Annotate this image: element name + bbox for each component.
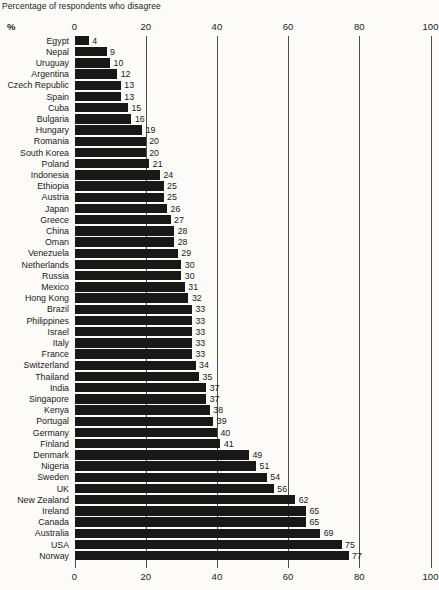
country-label: Romania	[0, 136, 69, 146]
bar	[75, 226, 175, 235]
bar	[75, 529, 321, 538]
country-label: Bulgaria	[0, 114, 69, 124]
value-label: 25	[167, 192, 177, 202]
x-axis-tick-label-bottom: 60	[283, 571, 294, 582]
value-label: 41	[224, 439, 234, 449]
x-axis-tick-label-top: 0	[72, 21, 77, 32]
bar-row: France33	[0, 349, 439, 360]
bar	[75, 450, 249, 459]
bar-chart-page: Percentage of respondents who disagree %…	[0, 0, 439, 590]
value-label: 30	[185, 260, 195, 270]
value-label: 35	[203, 372, 213, 382]
country-label: USA	[0, 540, 69, 550]
bar	[75, 249, 178, 258]
value-label: 77	[352, 551, 362, 561]
value-label: 20	[149, 136, 159, 146]
value-label: 54	[270, 472, 280, 482]
country-label: Japan	[0, 204, 69, 214]
country-label: Cuba	[0, 103, 69, 113]
bar	[75, 58, 111, 67]
bar	[75, 47, 107, 56]
bar-row: Italy33	[0, 337, 439, 348]
value-label: 9	[110, 47, 115, 57]
bar-row: Venezuela29	[0, 248, 439, 259]
value-label: 15	[131, 103, 141, 113]
x-axis-tick-label-bottom: 100	[423, 571, 439, 582]
value-label: 69	[324, 528, 334, 538]
value-label: 33	[195, 304, 205, 314]
value-label: 4	[92, 36, 97, 46]
value-label: 56	[277, 484, 287, 494]
bar	[75, 394, 207, 403]
bar-row: Indonesia24	[0, 169, 439, 180]
country-label: Philippines	[0, 316, 69, 326]
bar	[75, 517, 306, 526]
x-axis-tick-label-top: 20	[140, 21, 151, 32]
value-label: 65	[309, 517, 319, 527]
value-label: 21	[153, 159, 163, 169]
country-label: Egypt	[0, 36, 69, 46]
bar-row: India37	[0, 382, 439, 393]
bar-row: Bulgaria16	[0, 113, 439, 124]
bar-row: Greece27	[0, 214, 439, 225]
bar	[75, 69, 118, 78]
bar	[75, 237, 175, 246]
country-label: Poland	[0, 159, 69, 169]
value-label: 37	[210, 383, 220, 393]
bar	[75, 484, 274, 493]
country-label: Italy	[0, 338, 69, 348]
bar-row: Japan26	[0, 203, 439, 214]
value-label: 31	[188, 282, 198, 292]
value-label: 65	[309, 506, 319, 516]
country-label: Netherlands	[0, 260, 69, 270]
country-label: Thailand	[0, 372, 69, 382]
country-label: Czech Republic	[0, 80, 69, 90]
bar-row: South Korea20	[0, 147, 439, 158]
country-label: China	[0, 226, 69, 236]
bar	[75, 159, 150, 168]
bar-row: Nepal9	[0, 46, 439, 57]
country-label: Germany	[0, 428, 69, 438]
bar-row: Netherlands30	[0, 259, 439, 270]
bar-row: Russia30	[0, 270, 439, 281]
value-label: 62	[299, 495, 309, 505]
country-label: Uruguay	[0, 58, 69, 68]
bar	[75, 338, 192, 347]
bar	[75, 293, 189, 302]
bar-row: Portugal39	[0, 416, 439, 427]
bar	[75, 327, 192, 336]
value-label: 37	[210, 394, 220, 404]
bar	[75, 361, 196, 370]
x-axis-tick-label-bottom: 80	[354, 571, 365, 582]
bar	[75, 372, 200, 381]
x-axis-tick-label-bottom: 0	[72, 571, 77, 582]
bar	[75, 495, 296, 504]
value-label: 25	[167, 181, 177, 191]
country-label: Norway	[0, 551, 69, 561]
bar-row: Mexico31	[0, 281, 439, 292]
country-label: Mexico	[0, 282, 69, 292]
value-label: 30	[185, 271, 195, 281]
bar-row: Oman28	[0, 237, 439, 248]
country-label: Israel	[0, 327, 69, 337]
x-axis-tick-label-bottom: 40	[212, 571, 223, 582]
bar-row: USA75	[0, 539, 439, 550]
bar	[75, 170, 160, 179]
axis-unit-label: %	[7, 21, 15, 32]
bar	[75, 551, 349, 560]
bar	[75, 540, 342, 549]
bar-row: Sweden54	[0, 472, 439, 483]
country-label: Switzerland	[0, 360, 69, 370]
value-label: 28	[178, 237, 188, 247]
country-label: Ireland	[0, 506, 69, 516]
value-label: 24	[163, 170, 173, 180]
x-axis-tick-label-top: 60	[283, 21, 294, 32]
bar	[75, 103, 128, 112]
bar-row: Uruguay10	[0, 57, 439, 68]
bar	[75, 473, 267, 482]
bar-row: Egypt4	[0, 35, 439, 46]
country-label: Greece	[0, 215, 69, 225]
bar	[75, 305, 192, 314]
bar	[75, 506, 306, 515]
bar	[75, 125, 143, 134]
